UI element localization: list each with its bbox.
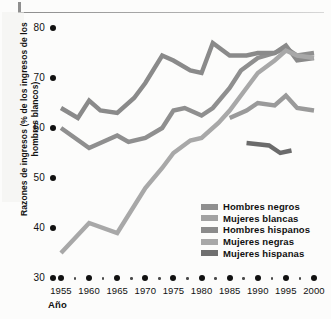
legend-swatch: [201, 227, 218, 233]
plot-area: [0, 0, 331, 319]
legend-label: Hombres negros: [223, 201, 300, 212]
legend-item: Mujeres negras: [201, 236, 310, 248]
legend-swatch: [201, 250, 218, 256]
legend-label: Hombres hispanos: [223, 224, 310, 235]
legend-item: Mujeres hispanas: [201, 247, 310, 259]
x-axis-label: Año: [48, 299, 67, 310]
legend-label: Mujeres hispanas: [223, 248, 304, 259]
chart-figure: Razones de ingresos (% de los ingresos d…: [0, 0, 331, 319]
legend-label: Mujeres negras: [223, 236, 294, 247]
series-line: [61, 48, 314, 148]
legend-label: Mujeres blancas: [223, 213, 298, 224]
chart-legend: Hombres negrosMujeres blancasHombres his…: [201, 201, 310, 259]
legend-item: Mujeres blancas: [201, 213, 310, 225]
series-line: [230, 96, 314, 119]
legend-item: Hombres negros: [201, 201, 310, 213]
series-line: [247, 143, 292, 153]
legend-swatch: [201, 215, 218, 221]
legend-item: Hombres hispanos: [201, 224, 310, 236]
legend-swatch: [201, 239, 218, 245]
legend-swatch: [201, 204, 218, 210]
